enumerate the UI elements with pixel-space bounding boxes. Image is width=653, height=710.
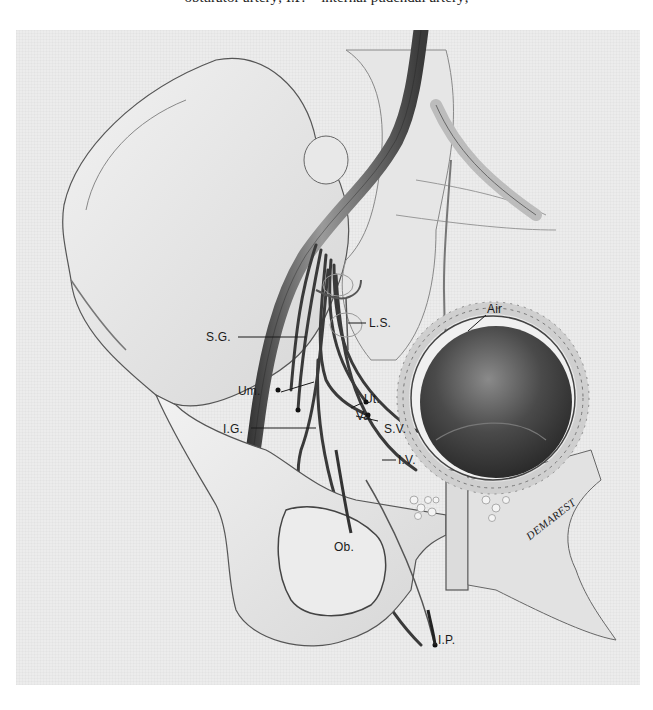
label-va: Va	[356, 410, 370, 422]
label-ls: L.S.	[369, 317, 391, 329]
caption-fragment: obturator artery; I.P. = internal pudend…	[0, 0, 653, 6]
label-ut: Ut.	[364, 393, 380, 405]
label-um: Um.	[238, 385, 261, 397]
sacrum	[342, 50, 453, 360]
anatomical-illustration: S.G. L.S. Air Um. Ut. Va I.G. S.V. I.V. …	[16, 30, 640, 685]
label-ob: Ob.	[334, 541, 354, 553]
label-air: Air	[487, 303, 502, 315]
ilium	[63, 58, 349, 405]
label-iv: I.V.	[398, 454, 416, 466]
label-ip: I.P.	[438, 634, 455, 646]
label-sv: S.V.	[384, 423, 406, 435]
pelvis-drawing	[16, 30, 640, 685]
label-ig: I.G.	[223, 423, 243, 435]
label-sg: S.G.	[206, 331, 231, 343]
bladder	[397, 302, 589, 494]
